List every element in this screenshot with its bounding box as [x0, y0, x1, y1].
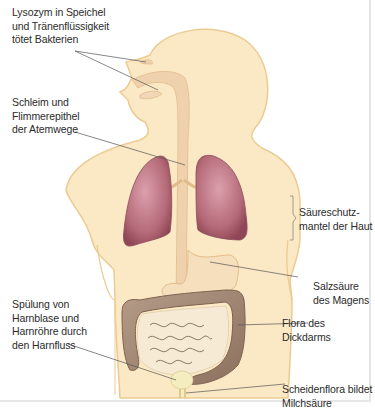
label-saeureschutzmantel: Säureschutz- mantel der Haut: [299, 206, 372, 233]
label-schleim-flimmerepithel: Schleim und Flimmerepithel der Atemwege: [12, 96, 79, 137]
label-lysozym: Lysozym in Speichel und Tränenflüssigkei…: [12, 6, 109, 47]
label-spuelung-harnfluss: Spülung von Harnblase und Harnröhre durc…: [12, 298, 87, 352]
small-intestine: [137, 306, 228, 375]
label-scheidenflora: Scheidenflora bildet Milchsäure: [282, 383, 372, 410]
label-flora-dickdarm: Flora des Dickdarms: [282, 317, 375, 344]
label-salzsaeure-magen: Salzsäure des Magens: [313, 280, 369, 307]
